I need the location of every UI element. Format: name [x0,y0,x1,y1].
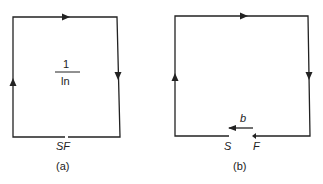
finish-arrow-icon [252,133,256,139]
finish-label: F [253,141,260,152]
arrow-down-icon [306,72,313,80]
caption-a: (a) [56,161,69,172]
arrow-right-icon [240,13,248,20]
circuit-diagrams [0,0,323,184]
arrow-down-icon [115,72,122,80]
fraction-denominator: ln [61,76,70,87]
arrow-right-icon [62,14,70,21]
arrow-up-icon [172,73,179,81]
fraction-numerator: 1 [63,59,69,70]
burgers-vector-arrow-icon [228,125,236,131]
caption-b: (b) [233,161,246,172]
burgers-vector-label: b [240,113,246,124]
start-label: S [224,141,231,152]
gap-label-sf: SF [56,141,70,152]
arrow-up-icon [10,78,17,86]
